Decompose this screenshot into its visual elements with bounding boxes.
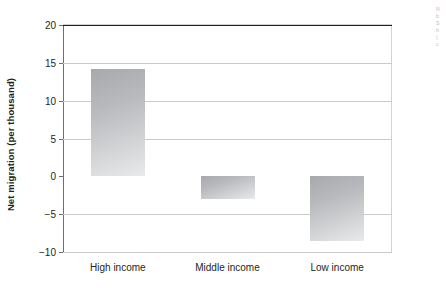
y-tick-mark	[59, 139, 63, 140]
chart-figure: Net migration (per thousand) 20151050−5−…	[0, 0, 446, 288]
gridline	[63, 63, 392, 64]
x-category-label: Middle income	[195, 262, 259, 273]
y-tick-label: −5	[45, 209, 56, 220]
side-caption-line: h	[436, 27, 446, 34]
y-tick-mark	[59, 252, 63, 253]
side-caption-line: b	[436, 13, 446, 20]
bar	[310, 176, 364, 241]
y-axis-title-text: Net migration (per thousand)	[6, 77, 17, 210]
y-tick-mark	[59, 101, 63, 102]
bar	[91, 69, 145, 176]
y-tick-label: 15	[45, 57, 56, 68]
y-tick-label: 10	[45, 95, 56, 106]
y-tick-label: −10	[39, 247, 56, 258]
y-tick-label: 20	[45, 20, 56, 31]
side-caption-line: c	[436, 41, 446, 48]
bar	[201, 176, 255, 199]
y-tick-mark	[59, 63, 63, 64]
side-caption-line: N	[436, 6, 446, 13]
gridline	[63, 252, 392, 253]
side-caption-line: (	[436, 34, 446, 41]
x-category-label: High income	[90, 262, 146, 273]
x-category-label: Low income	[310, 262, 363, 273]
side-caption: NbSh(c	[436, 6, 446, 48]
y-tick-mark	[59, 176, 63, 177]
zero-line	[63, 25, 392, 26]
y-tick-mark	[59, 214, 63, 215]
plot-area: 20151050−5−10	[63, 25, 392, 252]
y-axis-title: Net migration (per thousand)	[2, 0, 20, 288]
side-caption-line: S	[436, 20, 446, 27]
y-tick-label: 0	[50, 171, 56, 182]
y-tick-label: 5	[50, 133, 56, 144]
